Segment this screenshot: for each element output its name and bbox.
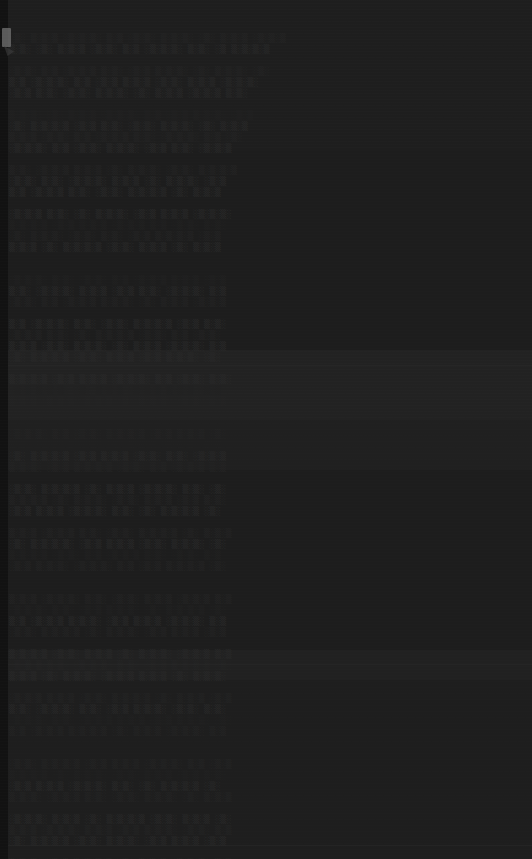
separator-line-2 bbox=[8, 664, 532, 665]
terminal-line: ░▒░▒ ▒░▒░▒ ░▒░▒░▒░ ▒░▒░ ░▒░ ▒░▒░▒░▒ ░▒░ bbox=[0, 506, 532, 517]
terminal-line: ▒░▒░▒ ░▒░▒░▒░ ▒░▒░ ░▒░▒░ ▒░▒░▒ ░▒░▒░▒ ▒░… bbox=[0, 594, 532, 605]
terminal-line: ░▒░ ▒░▒░▒░▒ ░▒░▒ ▒░▒░▒ ░▒░▒░ ▒░▒░ ░▒░▒░▒ bbox=[0, 451, 532, 462]
terminal-line: ░▒░ ▒░▒░▒░▒ ░▒░▒ ▒░▒░ ░▒░▒░ ▒░▒░▒░ ░▒░ ▒… bbox=[0, 121, 532, 132]
terminal-line: ▒░▒░ ░▒░▒░▒░ ▒░▒░ ░▒░▒ ▒░▒░▒░ ░▒░▒░ ▒░▒░ bbox=[0, 704, 532, 715]
terminal-line: ▒░▒ ░▒░▒░▒ ▒░▒░▒░▒ ░▒░ ▒░▒░▒ ░▒░▒░▒░ ▒░▒ bbox=[0, 726, 532, 737]
terminal-line: ░▒░ ▒░▒░▒░▒ ░▒░▒░ ▒░▒░▒ ░▒░▒ ▒░▒░▒░ ░▒░ bbox=[0, 352, 532, 363]
terminal-line bbox=[0, 253, 532, 264]
terminal-line: ░▒░▒░▒ ▒░▒░ ░▒░ ▒░▒░▒░▒ ░▒░▒░ ▒░▒ ░▒░▒░ bbox=[0, 330, 532, 341]
terminal-line: ░▒░▒░▒░ ▒░▒░ ░▒░▒ ▒░▒░▒░ ░▒░ ▒░▒░▒░▒ ░▒░ bbox=[0, 605, 532, 616]
terminal-line bbox=[0, 0, 532, 11]
terminal-line: ░▒░▒░▒░ ▒░▒ ░▒░▒░ ▒░▒░▒░▒ ░▒░▒ ▒░▒░▒ ░▒░ bbox=[0, 429, 532, 440]
terminal-line bbox=[0, 473, 532, 484]
terminal-line: ▒░▒ ░▒░▒░▒ ▒░▒░ ░▒░▒░ ▒░▒░▒░▒ ░▒░ ▒░▒░▒ bbox=[0, 187, 532, 198]
terminal-line bbox=[0, 803, 532, 814]
terminal-line: ░▒░▒░▒░ ▒░▒░ ░▒░▒░▒ ▒░▒░▒ ░▒░▒ ▒░▒░▒░ ░▒… bbox=[0, 715, 532, 726]
terminal-line: ░▒░▒░ ▒░▒ ░▒░▒░▒ ▒░▒░▒░ ░▒░ ▒░▒░▒ ░▒░▒░▒ bbox=[0, 297, 532, 308]
terminal-line: ▒░▒░▒ ░▒░▒░▒░ ▒░▒░▒ ░▒░▒ ▒░▒░▒░ ░▒░▒░ ▒░… bbox=[0, 825, 532, 836]
terminal-line: ▒░▒░▒░ ░▒░▒ ▒░▒░▒░▒ ░▒░▒░ ▒░▒ ░▒░▒░▒ ▒░▒ bbox=[0, 462, 532, 473]
terminal-line: ░▒░▒░ ▒░▒░▒░▒ ░▒░ ▒░▒░▒░ ░▒░▒ ▒░▒░▒ ░▒░▒ bbox=[0, 627, 532, 638]
terminal-line: ▒░▒ ░▒░▒░▒ ▒░▒░▒░ ░▒░▒ ▒░▒░▒ ░▒░▒░▒░ ▒░▒ bbox=[0, 616, 532, 627]
terminal-line: ░▒░▒░ ▒░▒░▒░▒ ░▒░▒ ▒░▒░▒ ░▒░▒░▒░ ▒░▒ ░▒░… bbox=[0, 759, 532, 770]
terminal-screen[interactable]: ░▒░ ▒░▒░▒ ░▒░▒░▒░ ▒░▒ ░▒░▒░ ▒░▒░▒░ ░▒░ ▒… bbox=[0, 0, 532, 859]
terminal-line bbox=[0, 198, 532, 209]
terminal-line: ▒░▒░▒ ░▒░▒░ ▒░▒░▒░ ░▒░ ▒░▒░▒ ░▒░▒░▒░ ▒░▒ bbox=[0, 341, 532, 352]
terminal-line: ░▒░▒░ ▒░▒ ░▒░▒░▒ ▒░▒░ ░▒░▒ ▒░▒░▒░ ░▒░ ▒░… bbox=[0, 66, 532, 77]
terminal-line: ▒░▒░▒ ░▒░▒░▒░ ▒░▒░▒ ░▒░ ▒░▒░▒░ ░▒░▒░ ▒░▒ bbox=[0, 396, 532, 407]
terminal-line: ░▒░▒ ▒░▒░▒ ░▒░▒░▒░ ▒░▒░ ░▒░ ▒░▒░▒░▒ ░▒░ bbox=[0, 781, 532, 792]
terminal-line: ▒░▒░ ░▒░▒░ ▒░▒░▒░ ░▒░ ▒░▒░▒ ░▒░▒░▒░ ▒░▒ bbox=[0, 440, 532, 451]
terminal-line: ░▒░▒ ▒░▒░ ░▒░▒░ ▒░▒░▒░ ░▒░ ▒░▒░▒ ░▒░▒░▒ … bbox=[0, 88, 532, 99]
terminal-line: ▒░▒░▒░ ░▒░▒░▒ ▒░▒░ ░▒░▒░ ▒░▒░▒░ ░▒░ ▒░▒░… bbox=[0, 792, 532, 803]
terminal-line: ▒░▒░ ░▒░ ▒░▒░▒ ░▒░▒░ ▒░▒ ░▒░▒░▒░ ▒░▒░ ░▒… bbox=[0, 44, 532, 55]
terminal-line: ▒░▒░▒░▒ ░▒░▒ ▒░▒░▒ ░▒░▒░▒ ▒░▒ ░▒░▒░ ▒░▒░ bbox=[0, 220, 532, 231]
terminal-line: ▒░▒░ ░▒░▒░▒ ▒░▒░▒ ░▒░ ▒░▒░▒░ ░▒░▒░ ▒░▒░▒… bbox=[0, 165, 532, 176]
terminal-line: ▒░▒░▒░ ░▒░ ▒░▒░▒ ░▒░▒░▒░ ▒░▒ ░▒░▒ ▒░▒░▒░… bbox=[0, 110, 532, 121]
terminal-line bbox=[0, 583, 532, 594]
separator-line-1 bbox=[8, 365, 532, 366]
terminal-line bbox=[0, 737, 532, 748]
terminal-line: ░▒░▒░ ▒░▒░▒░▒ ░▒░ ▒░▒░▒ ░▒░▒░▒░ ▒░▒░ ░▒░ bbox=[0, 484, 532, 495]
terminal-line bbox=[0, 99, 532, 110]
terminal-line bbox=[0, 682, 532, 693]
terminal-line: ▒░▒░▒░▒ ░▒░ ▒░▒░▒░ ░▒░▒░ ▒░▒░▒ ░▒░▒ ▒░▒░ bbox=[0, 495, 532, 506]
terminal-line: ░▒░▒ ▒░▒░▒░ ░▒░▒░▒░ ▒░▒ ░▒░▒ ▒░▒░▒░▒ ░▒░ bbox=[0, 561, 532, 572]
terminal-line: ░▒░▒░▒░ ▒░▒░ ░▒░▒░ ▒░▒ ░▒░▒░▒ ▒░▒░▒ ░▒░▒ bbox=[0, 275, 532, 286]
terminal-line: ▒░▒░▒░▒ ░▒░▒░ ▒░▒ ░▒░▒░▒ ▒░▒░ ░▒░▒░ ▒░▒ bbox=[0, 550, 532, 561]
terminal-line: ░▒░ ▒░▒░▒ ░▒░▒░▒░ ▒░▒ ░▒░▒░ ▒░▒░▒░ ░▒░ ▒… bbox=[0, 33, 532, 44]
terminal-line bbox=[0, 264, 532, 275]
terminal-line bbox=[0, 748, 532, 759]
terminal-line: ░▒░▒░▒ ▒░▒░▒ ░▒░▒░ ▒░▒░▒░▒ ░▒░ ▒░▒░▒ ░▒░… bbox=[0, 693, 532, 704]
terminal-line bbox=[0, 308, 532, 319]
terminal-line bbox=[0, 154, 532, 165]
terminal-line: ▒░▒░▒░▒ ░▒░ ▒░▒░▒░ ░▒░▒░ ▒░▒░▒ ░▒░▒ ▒░▒░ bbox=[0, 770, 532, 781]
terminal-text-layer[interactable]: ░▒░ ▒░▒░▒ ░▒░▒░▒░ ▒░▒ ░▒░▒░ ▒░▒░▒░ ░▒░ ▒… bbox=[0, 0, 532, 859]
terminal-line: ▒░▒ ░▒░▒░▒░ ▒░▒░ ░▒░▒░ ▒░▒░▒░▒ ░▒░▒ ▒░▒░ bbox=[0, 319, 532, 330]
terminal-line: ░▒░▒░▒ ▒░▒░ ░▒░ ▒░▒░▒░ ░▒░▒ ▒░▒░▒ ░▒░▒░▒… bbox=[0, 209, 532, 220]
terminal-line bbox=[0, 22, 532, 33]
terminal-line: ░▒░▒ ▒░▒░▒░ ░▒░ ▒░▒░▒ ░▒░▒░▒ ▒░▒░▒ ░▒░▒ bbox=[0, 385, 532, 396]
terminal-line bbox=[0, 418, 532, 429]
terminal-line: ▒░▒░▒░▒ ░▒░▒ ▒░▒░▒ ░▒░▒░▒░ ▒░▒ ░▒░▒░ ▒░▒… bbox=[0, 374, 532, 385]
terminal-line: ▒░▒░▒ ░▒░ ▒░▒░▒░▒ ░▒░▒░ ▒░▒░▒ ░▒░ ▒░▒░▒ bbox=[0, 242, 532, 253]
terminal-line: ▒░▒░▒ ░▒░▒░ ▒░▒ ░▒░▒░▒ ▒░▒░ ░▒░▒░▒░ ▒░▒ … bbox=[0, 132, 532, 143]
terminal-line: ░▒░▒░▒░ ▒░▒ ░▒░▒░ ▒░▒░▒░ ░▒░▒ ▒░▒░ ░▒░▒░… bbox=[0, 143, 532, 154]
terminal-line: ░▒░▒░ ▒░▒░ ░▒░▒░▒░ ▒░▒░▒ ░▒░ ▒░▒░▒░ ░▒░▒ bbox=[0, 176, 532, 187]
terminal-line bbox=[0, 11, 532, 22]
terminal-line: ░▒░ ▒░▒░▒░ ░▒░▒░ ▒░▒░ ░▒░▒ ▒░▒░▒░▒ ░▒░▒ bbox=[0, 231, 532, 242]
terminal-line: ▒░▒░▒ ░▒░ ▒░▒░▒░ ░▒░▒░▒ ▒░▒░▒ ░▒░ ▒░▒░▒░ bbox=[0, 671, 532, 682]
terminal-line: ▒░▒░▒░▒ ░▒░▒░ ▒░▒░▒ ░▒░ ▒░▒░▒░ ░▒░▒░▒ ▒░… bbox=[0, 649, 532, 660]
terminal-line bbox=[0, 517, 532, 528]
terminal-line: ░▒░▒░▒░ ▒░▒░▒ ░▒░ ▒░▒░▒░▒ ░▒░▒░ ▒░▒░▒ ░▒… bbox=[0, 814, 532, 825]
separator-line-3 bbox=[8, 845, 532, 846]
terminal-line: ▒░▒░ ░▒░▒░▒░ ▒░▒░▒ ░▒░▒ ▒░▒░ ░▒░▒░▒░ ▒░▒ bbox=[0, 286, 532, 297]
terminal-line bbox=[0, 572, 532, 583]
terminal-line bbox=[0, 55, 532, 66]
terminal-line bbox=[0, 638, 532, 649]
terminal-line: ▒░▒ ░▒░▒░▒░ ▒░▒ ░▒░▒ ▒░▒░▒ ░▒░▒░ ▒░▒░▒ ░… bbox=[0, 77, 532, 88]
terminal-line: ░▒░ ▒░▒░▒░▒░ ░▒░▒ ▒░▒░▒ ░▒░▒░ ▒░▒░▒░ ░▒░ bbox=[0, 539, 532, 550]
terminal-line bbox=[0, 847, 532, 858]
terminal-line bbox=[0, 407, 532, 418]
terminal-line: ░▒░▒ ▒░▒░▒░ ░▒░▒░▒░ ▒░▒░ ░▒░▒ ▒░▒░▒░▒ ░▒… bbox=[0, 660, 532, 671]
terminal-line: ▒░▒░▒ ░▒░▒░▒ ▒░▒░ ░▒░▒░ ▒░▒░▒░▒ ░▒░ ▒░▒░… bbox=[0, 528, 532, 539]
text-cursor[interactable] bbox=[2, 28, 11, 47]
